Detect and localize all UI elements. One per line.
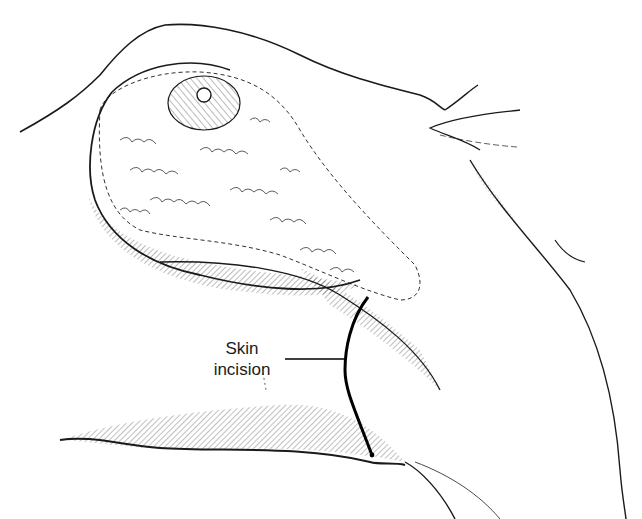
label-line-1: Skin	[202, 338, 282, 359]
lobule-texture	[120, 118, 354, 272]
glandular-tissue-outline	[99, 72, 420, 300]
chest-lateral-contour	[470, 160, 626, 519]
medical-illustration: Skin incision	[0, 0, 642, 519]
skin-incision-label: Skin incision	[202, 338, 282, 380]
nipple	[197, 88, 211, 102]
armpit-fold-lower	[430, 110, 520, 150]
label-line-2: incision	[202, 359, 282, 380]
illustration-drawing	[0, 0, 642, 519]
areola	[168, 76, 240, 130]
armpit-fold	[445, 85, 478, 110]
